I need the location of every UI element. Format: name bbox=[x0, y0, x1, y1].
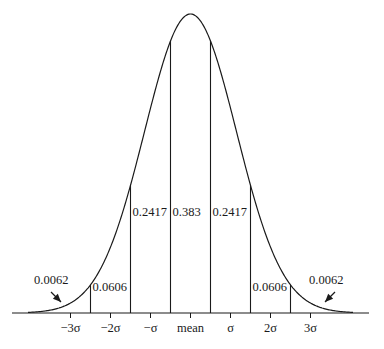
axis-tick-label: −σ bbox=[144, 321, 158, 335]
axis-tick-label: −2σ bbox=[100, 321, 120, 335]
axis-tick-label: σ bbox=[227, 321, 234, 335]
band-probability-label: 0.383 bbox=[173, 205, 201, 219]
axis-tick-label: 3σ bbox=[304, 321, 317, 335]
band-probability-label: 0.0606 bbox=[93, 280, 127, 294]
band-probability-label: 0.2417 bbox=[213, 205, 247, 219]
axis-tick-label: −3σ bbox=[60, 321, 80, 335]
band-probability-label: 0.2417 bbox=[133, 205, 167, 219]
bell-curve bbox=[28, 14, 353, 312]
normal-distribution-diagram: −3σ−2σ−σmeanσ2σ3σ 0.00620.06060.24170.38… bbox=[0, 0, 384, 349]
axis-tick-label: mean bbox=[177, 321, 205, 335]
band-probability-label: 0.0062 bbox=[34, 273, 68, 287]
band-probability-label: 0.0062 bbox=[309, 273, 343, 287]
band-probability-label: 0.0606 bbox=[253, 280, 287, 294]
axis-tick-label: 2σ bbox=[264, 321, 277, 335]
